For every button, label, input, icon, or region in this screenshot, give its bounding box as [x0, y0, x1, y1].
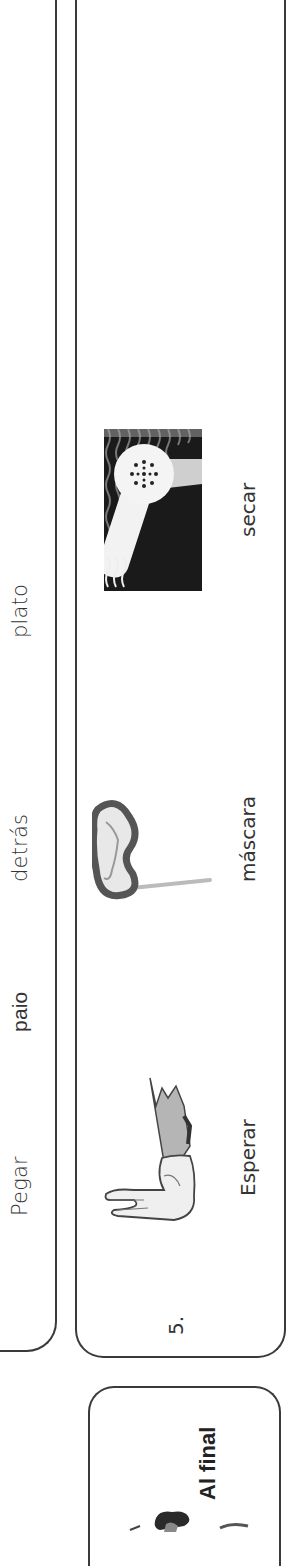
final-title: Al final	[195, 1427, 221, 1500]
word-detras: detrás	[8, 814, 32, 882]
word-paio: paio	[8, 991, 32, 1032]
hand-wait-icon	[104, 1076, 198, 1224]
final-box	[88, 1386, 281, 1566]
mask-icon	[92, 798, 214, 902]
card-number: 5.	[164, 1316, 188, 1335]
label-esperar: Esperar	[236, 1119, 260, 1196]
label-secar: secar	[236, 483, 260, 537]
hair-dryer-icon	[104, 429, 202, 591]
word-bank-box	[0, 0, 57, 1352]
word-plato: plato	[8, 584, 32, 638]
label-mascara: máscara	[236, 796, 260, 882]
person-illustration	[120, 1508, 270, 1532]
word-pegar: Pegar	[8, 1156, 32, 1216]
